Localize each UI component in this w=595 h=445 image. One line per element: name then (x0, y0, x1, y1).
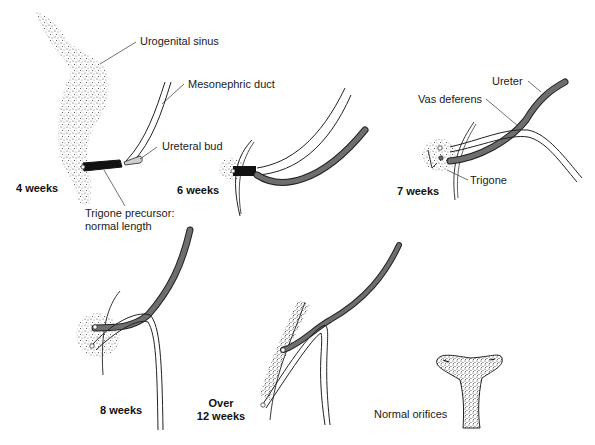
label-trigone: Trigone (470, 174, 507, 187)
stage-12-weeks-art (260, 245, 399, 425)
stage-label-7-weeks: 7 weeks (397, 185, 439, 198)
label-urogenital-sinus: Urogenital sinus (140, 35, 219, 48)
stage-6-weeks-art (219, 88, 365, 216)
label-ureteral-bud: Ureteral bud (162, 140, 223, 153)
urogenital-sinus-shape (36, 12, 109, 205)
label-trigone-precursor-line2: normal length (85, 220, 152, 233)
stage-label-12-weeks: 12 weeks (195, 410, 247, 423)
label-trigone-precursor-line1: Trigone precursor: (85, 207, 174, 220)
stage-8-weeks-art (76, 230, 190, 430)
stage-label-4-weeks: 4 weeks (16, 182, 58, 195)
stage-label-over: Over (195, 397, 247, 410)
stage-label-6-weeks: 6 weeks (177, 184, 219, 197)
label-ureter: Ureter (492, 75, 523, 88)
label-normal-orifices: Normal orifices (374, 408, 447, 421)
embryology-diagram: Urogenital sinus Mesonephric duct Ureter… (0, 0, 595, 445)
stage-label-8-weeks: 8 weeks (100, 404, 142, 417)
stage-label-over-12-weeks: Over 12 weeks (195, 397, 247, 423)
label-vas-deferens: Vas deferens (418, 93, 482, 106)
label-mesonephric-duct: Mesonephric duct (188, 78, 275, 91)
